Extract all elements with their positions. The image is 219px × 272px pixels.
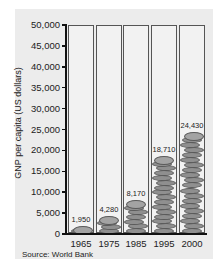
coin-icon: [180, 188, 200, 194]
bar-value-label: 24,430: [177, 121, 207, 130]
x-axis: [65, 233, 207, 235]
y-tick-label: 20,000: [14, 145, 60, 155]
x-tick-label: 1965: [66, 238, 96, 249]
y-tick-label: 45,000: [14, 41, 60, 51]
bar-value-label: 1,950: [66, 215, 96, 224]
y-tick-label: 0: [14, 229, 60, 239]
coin-icon: [184, 132, 204, 141]
bar-value-label: 18,710: [149, 145, 179, 154]
x-tick-label: 1995: [149, 238, 179, 249]
bar-value-label: 4,280: [94, 205, 124, 214]
y-tick-label: 15,000: [14, 166, 60, 176]
y-axis: [65, 24, 67, 235]
coin-icon: [126, 200, 146, 209]
x-tick-label: 1985: [121, 238, 151, 249]
x-tick-label: 2000: [177, 238, 207, 249]
bar-tube-1975: [96, 25, 122, 233]
y-tick-label: 40,000: [14, 62, 60, 72]
y-tick-label: 50,000: [14, 20, 60, 30]
source-note: Source: World Bank: [22, 250, 93, 259]
bar-tube-1965: [68, 25, 94, 233]
y-tick-label: 5,000: [14, 208, 60, 218]
y-tick-label: 25,000: [14, 125, 60, 135]
y-tick-label: 35,000: [14, 83, 60, 93]
y-tick-label: 30,000: [14, 104, 60, 114]
x-tick-label: 1975: [94, 238, 124, 249]
coin-icon: [154, 156, 174, 165]
y-tick-label: 10,000: [14, 187, 60, 197]
bar-value-label: 8,170: [121, 189, 151, 198]
